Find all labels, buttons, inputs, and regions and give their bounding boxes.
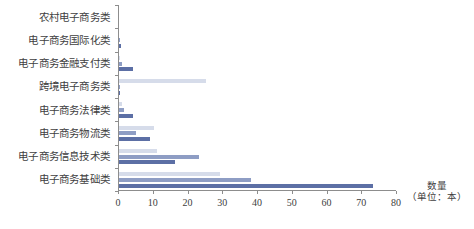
bar [119,184,373,188]
x-axis-tick [396,191,397,194]
y-axis-tick [115,75,118,76]
bar [119,79,206,83]
y-axis-tick [115,52,118,53]
category-label: 电子商务法律类 [39,104,110,115]
x-axis-tick-label: 40 [252,197,262,208]
bar [119,172,220,176]
category-label: 电子商务物流类 [39,127,110,138]
x-axis-tick [257,191,258,194]
category-label: 电子商务基础类 [39,174,110,185]
bar [119,38,120,42]
bar [119,62,122,66]
bar [119,91,120,95]
bar [119,114,133,118]
x-axis-title-line2: （单位：本） [400,192,474,203]
x-axis-tick-label: 70 [356,197,366,208]
category-axis-labels: 农村电子商务类电子商务国际化类电子商务金融支付类跨境电子商务类电子商务法律类电子… [0,5,114,190]
y-axis-tick [115,5,118,6]
y-axis-tick [115,145,118,146]
category-label: 农村电子商务类 [39,11,110,22]
x-axis-title-line1: 数量 [400,181,474,192]
bar [119,56,120,60]
bar [119,85,120,89]
bar [119,149,157,153]
bar [119,102,122,106]
y-axis-tick [115,28,118,29]
bar [119,155,199,159]
x-axis-tick [188,191,189,194]
y-axis-tick [115,121,118,122]
bar [119,67,133,71]
x-axis-tick [292,191,293,194]
x-axis-title: 数量 （单位：本） [400,181,474,203]
x-axis-tick-label: 20 [183,197,193,208]
category-label: 跨境电子商务类 [39,81,110,92]
x-axis-tick-label: 60 [322,197,332,208]
bar [119,126,154,130]
x-axis-tick [361,191,362,194]
x-axis-tick-label: 50 [287,197,297,208]
bar [119,131,136,135]
y-axis-tick [115,98,118,99]
x-axis-tick-label: 0 [116,197,121,208]
bar [119,160,175,164]
bar [119,178,251,182]
category-label: 电子商务信息技术类 [18,151,110,162]
y-axis-tick [115,168,118,169]
x-axis-tick-label: 30 [217,197,227,208]
x-axis-tick [118,191,119,194]
x-axis-tick-label: 10 [148,197,158,208]
category-label: 电子商务国际化类 [28,34,110,45]
x-axis-tick [327,191,328,194]
bar-chart: 农村电子商务类电子商务国际化类电子商务金融支付类跨境电子商务类电子商务法律类电子… [0,0,474,229]
x-axis-tick [222,191,223,194]
bar [119,137,150,141]
plot-area: 01020304050607080 [118,5,396,191]
x-axis-tick [153,191,154,194]
category-label: 电子商务金融支付类 [18,58,110,69]
bar [119,108,124,112]
bar [119,44,121,48]
